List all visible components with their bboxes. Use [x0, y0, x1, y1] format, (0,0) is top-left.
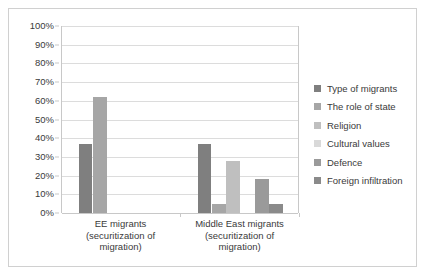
y-axis-tick-label: 60%: [35, 96, 54, 106]
y-axis-tick-mark: [55, 213, 59, 214]
bar: [269, 204, 283, 213]
bar: [226, 161, 240, 213]
y-axis-tick-mark: [55, 156, 59, 157]
legend-swatch-icon: [314, 122, 321, 129]
y-axis-tick-label: 0%: [40, 208, 54, 218]
x-axis-label-line: EE migrants: [61, 218, 180, 230]
y-axis-tick-mark: [55, 63, 59, 64]
x-axis-label: EE migrants(securitization ofmigration): [61, 218, 180, 253]
bar-group: [181, 26, 300, 213]
legend-swatch-icon: [314, 103, 321, 110]
legend-swatch-icon: [314, 159, 321, 166]
legend-item-label: Foreign infiltration: [327, 176, 403, 186]
x-axis-label-line: (securitization of: [61, 230, 180, 242]
chart-legend: Type of migrantsThe role of stateReligio…: [314, 79, 419, 190]
legend-item: Foreign infiltration: [314, 172, 419, 191]
legend-item-label: Type of migrants: [327, 84, 397, 94]
y-axis-tick-mark: [55, 119, 59, 120]
legend-item-label: Religion: [327, 121, 361, 131]
x-axis-label-line: (securitization of: [180, 230, 299, 242]
legend-swatch-icon: [314, 177, 321, 184]
y-axis-tick-label: 70%: [35, 77, 54, 87]
y-axis-tick-label: 20%: [35, 171, 54, 181]
legend-item-label: The role of state: [327, 102, 396, 112]
legend-item: Defence: [314, 153, 419, 172]
x-axis-tick-mark: [180, 213, 181, 217]
y-axis-tick-mark: [55, 175, 59, 176]
legend-item: The role of state: [314, 98, 419, 117]
y-axis-tick-mark: [55, 26, 59, 27]
plot-area: [61, 26, 299, 213]
chart-frame: 100%90%80%70%60%50%40%30%20%10%0% EE mig…: [8, 8, 417, 267]
x-axis-label: Middle East migrants(securitization ofmi…: [180, 218, 299, 253]
bar: [198, 144, 212, 213]
y-axis-tick-label: 100%: [30, 21, 54, 31]
y-axis-tick-label: 30%: [35, 152, 54, 162]
legend-item: Type of migrants: [314, 79, 419, 98]
y-axis-tick-label: 40%: [35, 133, 54, 143]
legend-item: Religion: [314, 116, 419, 135]
bar: [255, 179, 269, 213]
x-axis-label-line: migration): [61, 241, 180, 253]
bar: [93, 97, 107, 213]
y-axis-tick-label: 80%: [35, 59, 54, 69]
y-axis-tick-mark: [55, 138, 59, 139]
y-axis-tick-label: 10%: [35, 190, 54, 200]
y-axis-tick-mark: [55, 194, 59, 195]
y-axis-tick-mark: [55, 44, 59, 45]
bar-group: [62, 26, 181, 213]
y-axis-tick-label: 50%: [35, 115, 54, 125]
bar: [79, 144, 93, 213]
bar: [212, 204, 226, 213]
legend-item-label: Defence: [327, 158, 362, 168]
legend-item-label: Cultural values: [327, 139, 390, 149]
x-axis-label-line: migration): [180, 241, 299, 253]
y-axis-tick-mark: [55, 100, 59, 101]
legend-swatch-icon: [314, 140, 321, 147]
bars-layer: [62, 26, 298, 213]
x-axis-label-line: Middle East migrants: [180, 218, 299, 230]
y-axis-tick-label: 90%: [35, 40, 54, 50]
y-axis-tick-mark: [55, 82, 59, 83]
y-axis: 100%90%80%70%60%50%40%30%20%10%0%: [9, 26, 59, 213]
legend-item: Cultural values: [314, 135, 419, 154]
x-axis-tick-mark: [299, 213, 300, 217]
legend-swatch-icon: [314, 85, 321, 92]
